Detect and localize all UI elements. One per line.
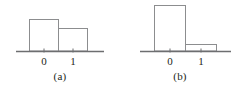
bar-a-1 bbox=[59, 29, 88, 52]
x-tick-label-a-1: 1 bbox=[70, 55, 76, 67]
histogram-plot-a: 0 1 bbox=[0, 0, 120, 70]
histogram-svg-b: 0 1 bbox=[120, 0, 240, 70]
x-tick-label-a-0: 0 bbox=[41, 55, 47, 67]
histogram-plot-b: 0 1 bbox=[120, 0, 240, 70]
panel-b: 0 1 (b) bbox=[120, 0, 240, 91]
bar-a-0 bbox=[30, 20, 59, 52]
bar-b-0 bbox=[155, 6, 186, 52]
panel-a-caption: (a) bbox=[0, 69, 120, 83]
x-tick-label-b-0: 0 bbox=[167, 55, 173, 67]
histogram-figure-pair: 0 1 (a) 0 1 (b) bbox=[0, 0, 240, 91]
histogram-svg-a: 0 1 bbox=[0, 0, 120, 70]
panel-b-caption: (b) bbox=[120, 69, 240, 83]
panel-a: 0 1 (a) bbox=[0, 0, 120, 91]
x-tick-label-b-1: 1 bbox=[198, 55, 204, 67]
